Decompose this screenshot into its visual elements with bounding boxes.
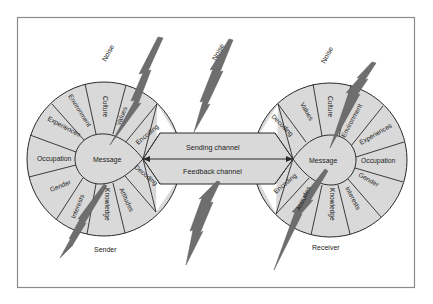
- communication-diagram: Noise Noise Noise Culture Values Encodin…: [0, 0, 433, 304]
- sender-center-message: Message: [93, 156, 122, 164]
- sender-segment-knowledge: Knowledge: [103, 188, 111, 221]
- receiver-label: Receiver: [312, 244, 340, 251]
- receiver-segment-knowledge: Knowledge: [328, 188, 336, 221]
- sender-segment-occupation: Occupation: [37, 155, 72, 163]
- receiver-segment-culture: Culture: [327, 96, 334, 118]
- receiver-segment-occupation: Occupation: [361, 157, 396, 165]
- sender-label: Sender: [94, 246, 117, 253]
- receiver-center-message: Message: [309, 157, 338, 165]
- feedback-channel-label: Feedback channel: [183, 167, 242, 176]
- sending-channel-label: Sending channel: [186, 143, 240, 152]
- channel-band: [143, 133, 293, 184]
- sender-segment-culture: Culture: [102, 96, 109, 118]
